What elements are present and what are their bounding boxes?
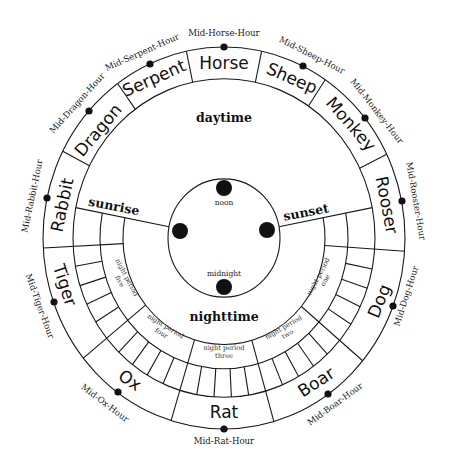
zodiac-divider xyxy=(255,51,261,82)
mid-dog-dot-icon xyxy=(389,302,396,309)
mid-rooster-dot-icon xyxy=(398,197,405,204)
zodiac-divider xyxy=(360,154,387,168)
night-cell-divider xyxy=(214,369,216,397)
night-cell-divider xyxy=(336,295,360,307)
zodiac-divider xyxy=(83,305,145,358)
night-period-three-line1: night period xyxy=(203,344,245,352)
zodiac-label-rabbit: Rabbit xyxy=(47,176,78,234)
sunset-dot-icon xyxy=(259,222,275,238)
night-cell-divider xyxy=(119,332,138,352)
night-cell-divider xyxy=(197,367,202,395)
mid-boar-dot-icon xyxy=(324,390,331,397)
wheel-geometry xyxy=(43,47,405,429)
outer-ring xyxy=(43,47,405,429)
night-cell-divider xyxy=(163,358,174,384)
noon-dot-icon xyxy=(216,180,232,196)
mid-hour-label-rabbit: Mid-Rabbit-Hour xyxy=(19,158,44,233)
sunset-label: sunset xyxy=(282,200,330,224)
zodiac-divider xyxy=(301,306,362,360)
mid-hour-label-tiger: Mid-Tiger-Hour xyxy=(24,272,57,340)
night-cell-divider xyxy=(309,333,327,354)
night-cell-divider xyxy=(87,292,112,304)
zodiac-divider xyxy=(171,340,194,421)
mid-sheep-dot-icon xyxy=(299,62,306,69)
mid-ox-dot-icon xyxy=(114,388,121,395)
night-period-five: night period five xyxy=(106,258,140,303)
zodiac-label-boar: Boar xyxy=(294,363,338,401)
night-cell-divider xyxy=(328,309,351,324)
night-cell-divider xyxy=(244,367,248,395)
mid-hour-labels: Mid-Horse-Hour Mid-Sheep-Hour Mid-Monkey… xyxy=(19,28,428,446)
night-cell-divider xyxy=(272,359,282,385)
night-cell-divider xyxy=(298,343,314,366)
night-period-two: night period two xyxy=(264,313,308,348)
night-period-three: night period three xyxy=(203,344,245,360)
zodiac-divider xyxy=(43,244,123,248)
mid-rabbit-dot-icon xyxy=(43,194,50,201)
mid-hour-label-ox: Mid-Ox-Hour xyxy=(79,382,131,425)
mid-hour-label-rat: Mid-Rat-Hour xyxy=(194,436,255,446)
night-cell-divider xyxy=(342,279,368,288)
night-cell-divider xyxy=(147,351,161,376)
noon-label: noon xyxy=(215,198,234,207)
mid-tiger-dot-icon xyxy=(50,298,57,305)
zodiac-label-dragon: Dragon xyxy=(70,100,125,161)
zodiac-label-sheep: Sheep xyxy=(264,58,321,97)
night-cell-divider xyxy=(132,342,148,365)
night-period-three-line2: three xyxy=(215,352,233,360)
mid-hour-label-horse: Mid-Horse-Hour xyxy=(188,28,260,38)
mid-serpent-dot-icon xyxy=(146,60,153,67)
nighttime-label: nighttime xyxy=(189,309,258,324)
zodiac-divider xyxy=(325,245,405,251)
sunrise-dot-icon xyxy=(172,223,188,239)
double-hour-wheel: Horse Sheep Monkey Rooser Dog Boar Rat O… xyxy=(0,0,449,466)
zodiac-label-horse: Horse xyxy=(199,53,249,73)
center-labels: daytime nighttime sunrise sunset noon mi… xyxy=(87,110,330,324)
night-cell-divider xyxy=(80,277,106,286)
zodiac-label-rat: Rat xyxy=(210,402,239,422)
midnight-dot-icon xyxy=(216,279,232,295)
night-period-one: night period one xyxy=(305,256,339,301)
daytime-label: daytime xyxy=(196,110,252,125)
mid-horse-dot-icon xyxy=(220,43,227,50)
night-cell-divider xyxy=(346,263,372,269)
mid-hour-label-rooster: Mid-Rooster-Hour xyxy=(404,161,428,241)
night-cell-divider xyxy=(75,261,102,266)
night-cell-divider xyxy=(285,352,298,377)
mid-rat-dot-icon xyxy=(220,425,227,432)
zodiac-divider xyxy=(186,51,192,82)
night-cell-divider xyxy=(230,369,231,397)
mid-dragon-dot-icon xyxy=(85,107,92,114)
midnight-label: midnight xyxy=(207,269,241,278)
mid-hour-label-dog: Mid-Dog-Hour xyxy=(392,264,421,328)
night-cell-divider xyxy=(96,307,119,322)
zodiac-divider xyxy=(252,340,274,421)
sunrise-label: sunrise xyxy=(87,194,140,219)
